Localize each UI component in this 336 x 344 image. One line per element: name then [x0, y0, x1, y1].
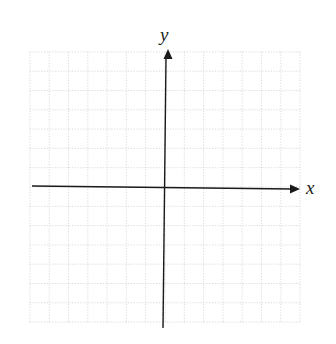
y-axis-label: y: [160, 25, 168, 44]
x-axis-arrow-icon: [290, 185, 300, 194]
y-axis-arrow-icon: [164, 49, 173, 59]
y-axis: [163, 58, 166, 328]
x-axis: [32, 186, 292, 189]
coordinate-grid: [0, 0, 336, 344]
coordinate-plane: y x: [0, 0, 336, 344]
x-axis-label: x: [306, 178, 314, 197]
